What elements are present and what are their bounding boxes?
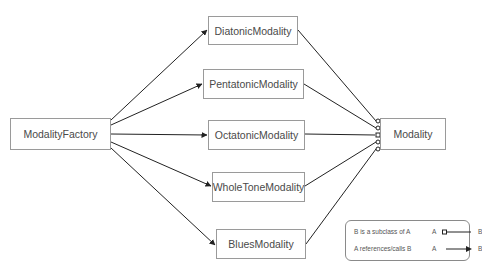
node-modality-factory[interactable]: ModalityFactory — [10, 118, 111, 150]
node-label: WholeToneModality — [213, 181, 305, 193]
node-wholetone-modality[interactable]: WholeToneModality — [212, 172, 305, 202]
legend-subclass-b: B — [478, 228, 482, 235]
legend-subclass-a: A — [432, 228, 442, 235]
node-label: BluesModality — [228, 238, 293, 250]
node-modality[interactable]: Modality — [380, 118, 446, 150]
arrow-factory-to-pentatonic — [111, 84, 202, 125]
subclass-lines — [298, 30, 376, 244]
node-pentatonic-modality[interactable]: PentatonicModality — [203, 69, 304, 99]
node-label: DiatonicModality — [214, 25, 291, 37]
reference-arrows — [111, 30, 215, 245]
arrow-factory-to-wholetone — [111, 142, 211, 186]
node-label: PentatonicModality — [209, 78, 298, 90]
node-diatonic-modality[interactable]: DiatonicModality — [208, 16, 298, 45]
line-octatonic-to-modality — [305, 134, 375, 135]
legend-references-desc: A references/calls B — [354, 245, 432, 252]
legend-subclass-desc: B is a subclass of A — [354, 228, 432, 235]
line-diatonic-to-modality — [298, 30, 376, 121]
line-pentatonic-to-modality — [304, 84, 376, 128]
legend-references-b: B — [478, 245, 482, 252]
subclass-line-icon — [442, 229, 472, 235]
legend: B is a subclass of A A B A references/ca… — [345, 220, 470, 261]
node-blues-modality[interactable]: BluesModality — [216, 229, 306, 259]
node-octatonic-modality[interactable]: OctatonicModality — [208, 120, 305, 150]
legend-references-a: A — [432, 245, 442, 252]
node-label: Modality — [393, 128, 432, 140]
arrow-factory-to-octatonic — [111, 134, 207, 135]
node-label: ModalityFactory — [23, 128, 97, 140]
arrow-right-icon — [442, 246, 472, 252]
arrow-factory-to-blues — [111, 148, 215, 245]
arrow-factory-to-diatonic — [111, 30, 207, 120]
legend-row-references: A references/calls B A B — [354, 245, 482, 252]
legend-row-subclass: B is a subclass of A A B — [354, 228, 482, 235]
node-label: OctatonicModality — [215, 129, 298, 141]
